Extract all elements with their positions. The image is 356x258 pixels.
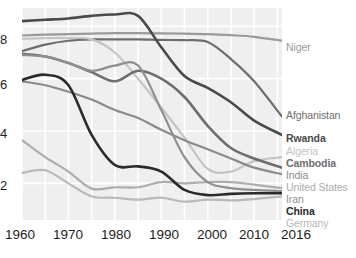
series-label-united-states: United States	[286, 182, 348, 193]
plot-svg	[22, 8, 282, 220]
series-label-iran: Iran	[286, 194, 304, 205]
series-lines	[22, 13, 282, 202]
series-label-afghanistan: Afghanistan	[286, 110, 340, 121]
x-tick-label-1960: 1960	[5, 228, 35, 242]
y-tick-label-6: 6	[0, 78, 18, 91]
series-line-iran	[22, 55, 282, 191]
series-label-india: India	[286, 170, 308, 181]
series-label-china: China	[286, 206, 315, 217]
series-label-niger: Niger	[286, 42, 311, 53]
series-line-germany	[22, 170, 282, 202]
x-tick-label-2016: 2016	[281, 228, 311, 242]
x-tick-label-1970: 1970	[53, 228, 83, 242]
x-tick-label-1980: 1980	[101, 228, 131, 242]
series-label-rwanda: Rwanda	[286, 133, 326, 144]
y-tick-label-4: 4	[0, 127, 18, 140]
x-tick-label-2010: 2010	[239, 228, 269, 242]
series-label-cambodia: Cambodia	[286, 158, 336, 169]
x-tick-label-1990: 1990	[149, 228, 179, 242]
series-label-algeria: Algeria	[286, 146, 318, 157]
x-axis: 1960197019801990200020102016	[0, 228, 356, 248]
series-line-china	[22, 75, 282, 196]
fertility-rate-line-chart: 8642 NigerAfghanistanRwandaAlgeriaCambod…	[0, 0, 356, 258]
y-tick-label-8: 8	[0, 33, 18, 46]
horizontal-gridlines	[22, 26, 282, 183]
plot-area	[22, 8, 282, 220]
series-legend: NigerAfghanistanRwandaAlgeriaCambodiaInd…	[286, 0, 356, 258]
series-line-algeria	[22, 38, 282, 173]
x-tick-label-2000: 2000	[197, 228, 227, 242]
y-tick-label-2: 2	[0, 179, 18, 192]
series-line-united-states	[22, 140, 282, 189]
